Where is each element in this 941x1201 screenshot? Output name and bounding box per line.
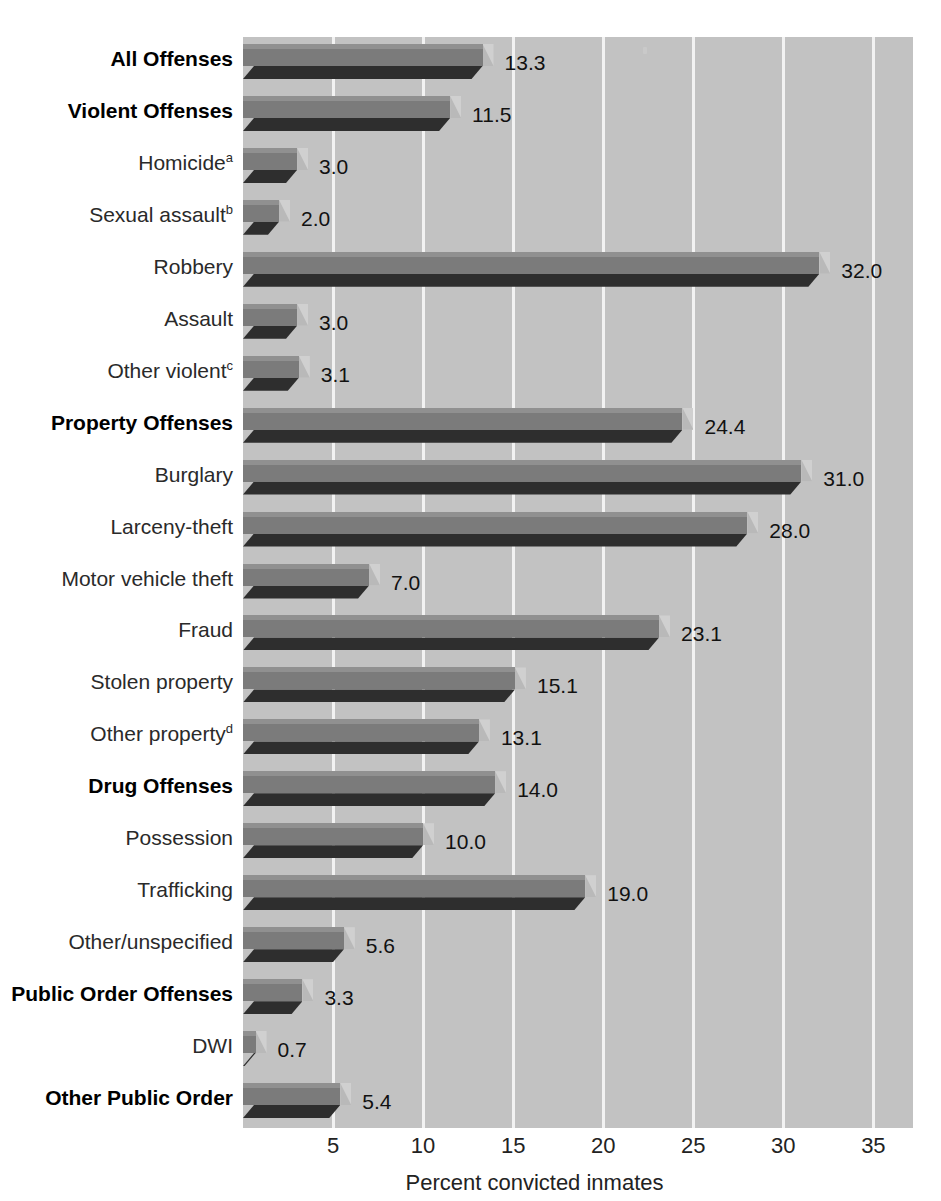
category-label: Larceny-theft: [110, 514, 233, 540]
bar-value-label: 31.0: [823, 467, 864, 491]
bar-shadow: [243, 741, 479, 754]
bar-top-highlight: [243, 771, 495, 776]
bar-shadow: [243, 170, 297, 183]
bar-shadow: [243, 845, 423, 858]
bar-row: 24.4: [243, 401, 913, 453]
category-label: Other/unspecified: [68, 929, 233, 955]
category-label: Other Public Order: [45, 1085, 233, 1111]
bar-top-highlight: [243, 875, 585, 880]
x-axis-title: Percent convicted inmates: [0, 1170, 941, 1196]
bar-top-highlight: [243, 512, 747, 517]
bar-value-label: 5.4: [362, 1090, 391, 1114]
bar-shadow: [243, 118, 450, 131]
bar-shadow: [243, 793, 495, 806]
category-label: Assault: [164, 306, 233, 332]
bar-top-highlight: [243, 615, 659, 620]
bar-top-highlight: [243, 148, 297, 153]
x-tick-label-20: 20: [591, 1133, 615, 1159]
bar-shadow: [243, 430, 682, 443]
bar-top-highlight: [243, 304, 297, 309]
bar-row: 5.6: [243, 920, 913, 972]
bar: [243, 564, 369, 599]
bar-top-highlight: [243, 1083, 340, 1088]
bar-row: 11.5: [243, 89, 913, 141]
bar: [243, 408, 682, 443]
bar-value-label: 13.1: [501, 726, 542, 750]
category-label: Robbery: [154, 254, 233, 280]
bar-row: 5.4: [243, 1076, 913, 1128]
category-label: Motor vehicle theft: [61, 566, 233, 592]
bar-shadow: [243, 1001, 302, 1014]
bar-top-highlight: [243, 1031, 256, 1036]
bar-value-label: 0.7: [278, 1038, 307, 1062]
bar: [243, 979, 302, 1014]
footnote-marker: a: [226, 150, 233, 165]
category-label: Stolen property: [91, 669, 233, 695]
bar-value-label: 28.0: [769, 519, 810, 543]
x-tick-label-35: 35: [861, 1133, 885, 1159]
footnote-marker: d: [226, 721, 233, 736]
category-label: Trafficking: [137, 877, 233, 903]
category-label: Violent Offenses: [68, 98, 233, 124]
bar-chart: 13.311.53.02.032.03.03.124.431.028.07.02…: [0, 0, 941, 1201]
category-label: Public Order Offenses: [11, 981, 233, 1007]
x-axis-title-text: Percent convicted inmates: [405, 1170, 663, 1196]
bar-top-highlight: [243, 564, 369, 569]
bar-row: 32.0: [243, 245, 913, 297]
bar-value-label: 15.1: [537, 674, 578, 698]
bar-top-highlight: [243, 356, 299, 361]
bar-value-label: 11.5: [472, 103, 511, 127]
bar: [243, 875, 585, 910]
bar-shadow: [243, 637, 659, 650]
x-tick-label-30: 30: [771, 1133, 795, 1159]
bar-shadow: [243, 482, 801, 495]
bar-value-label: 19.0: [607, 882, 648, 906]
bar-shadow: [243, 378, 299, 391]
category-label: Other violentc: [107, 358, 233, 384]
bar-value-label: 14.0: [517, 778, 558, 802]
bar-row: 31.0: [243, 453, 913, 505]
category-label: Other propertyd: [90, 721, 233, 747]
bar: [243, 44, 483, 79]
bar-value-label: 32.0: [841, 259, 882, 283]
bar-row: 15.1: [243, 660, 913, 712]
bar-row: 10.0: [243, 816, 913, 868]
bar: [243, 771, 495, 806]
bar-top-highlight: [243, 96, 450, 101]
bar-shadow: [243, 897, 585, 910]
bar-value-label: 3.0: [319, 155, 348, 179]
bar-shadow: [243, 326, 297, 339]
bar: [243, 252, 819, 287]
x-tick-label-15: 15: [501, 1133, 525, 1159]
bar: [243, 148, 297, 183]
category-label: Fraud: [178, 617, 233, 643]
bar-row: 13.3: [243, 37, 913, 89]
bar-row: 13.1: [243, 712, 913, 764]
category-label: DWI: [192, 1033, 233, 1059]
bar-top-highlight: [243, 927, 344, 932]
bar-top-highlight: [243, 200, 279, 205]
bar-shadow: [243, 66, 483, 79]
category-label: Possession: [126, 825, 233, 851]
bar: [243, 96, 450, 131]
bar-row: 3.3: [243, 972, 913, 1024]
x-tick-label-25: 25: [681, 1133, 705, 1159]
bar-value-label: 2.0: [301, 207, 330, 231]
bar-row: 19.0: [243, 868, 913, 920]
bar-top-highlight: [243, 979, 302, 984]
bar: [243, 200, 279, 235]
bar-top-highlight: [243, 252, 819, 257]
bar: [243, 356, 299, 391]
bar-shadow: [243, 1053, 256, 1066]
category-label: Sexual assaultb: [89, 202, 233, 228]
bar-row: 2.0: [243, 193, 913, 245]
bar-shadow: [243, 534, 747, 547]
plot-area: 13.311.53.02.032.03.03.124.431.028.07.02…: [243, 37, 913, 1128]
bar-shadow: [243, 1105, 340, 1118]
bar: [243, 667, 515, 702]
bar-value-label: 3.1: [321, 363, 350, 387]
bar-top-highlight: [243, 460, 801, 465]
bar: [243, 460, 801, 495]
category-label: Property Offenses: [51, 410, 233, 436]
bar-row: 23.1: [243, 608, 913, 660]
